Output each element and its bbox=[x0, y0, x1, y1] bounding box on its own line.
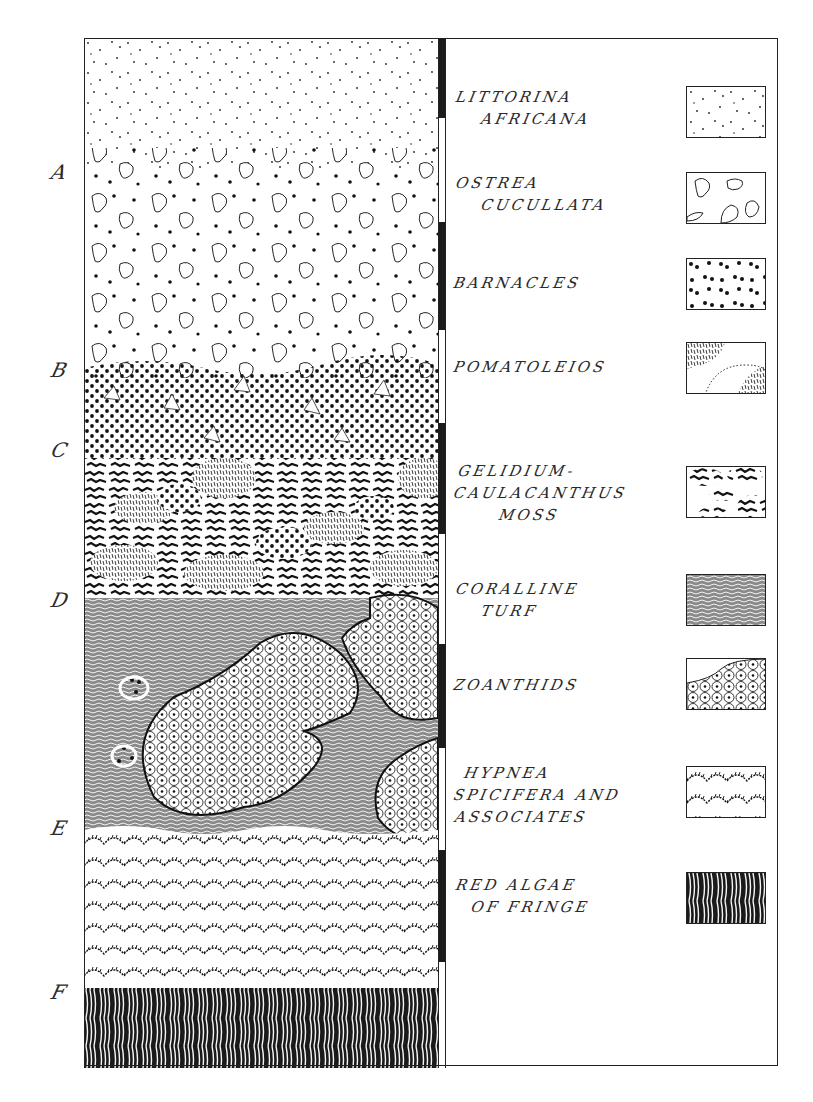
zone-marker-b: B bbox=[49, 358, 70, 382]
zonation-figure: LITTORINA AFRICANA OSTREA CUCULLATA bbox=[84, 38, 780, 1068]
zone-marker-a: A bbox=[49, 160, 69, 184]
zone-marker-e: E bbox=[49, 816, 70, 840]
zone-marker-c: C bbox=[49, 438, 70, 462]
zone-marker-d: D bbox=[49, 588, 71, 612]
figure-frame bbox=[84, 38, 778, 1066]
zone-marker-f: F bbox=[49, 980, 69, 1004]
